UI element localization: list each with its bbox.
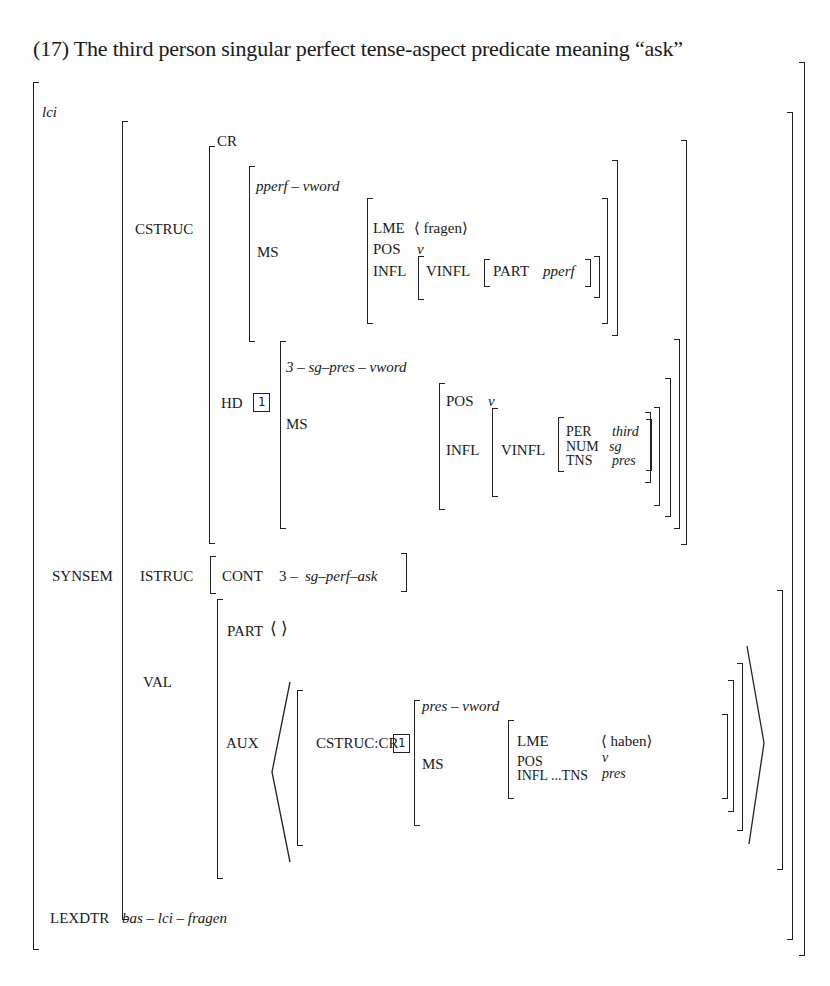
hd-label: HD	[221, 395, 243, 411]
val-bracket-left	[217, 599, 223, 879]
aux-list-close-angle	[746, 646, 766, 846]
val-part-label: PART	[227, 623, 263, 639]
aux-list-open-angle	[271, 682, 291, 862]
istruc-cont-label: CONT	[222, 568, 263, 584]
val-part-value: ⟨ ⟩	[270, 621, 288, 637]
avm-type: lci	[42, 104, 57, 120]
aux-ms-label: MS	[422, 756, 444, 772]
cstruc-bracket-right	[681, 140, 687, 545]
istruc-bracket-right	[401, 553, 407, 592]
cr-pos-label: POS	[373, 241, 401, 257]
cr-pos-value: v	[417, 241, 424, 257]
istruc-cont-value: sg–perf–ask	[305, 568, 378, 584]
synsem-bracket-left	[122, 121, 128, 920]
cr-label: CR	[217, 133, 237, 149]
hd-vinfl-label: VINFL	[501, 442, 545, 458]
aux-lme-label: LME	[517, 733, 549, 749]
aux-label: AUX	[226, 735, 259, 751]
hd-infl-bracket-left	[492, 408, 498, 497]
hd-agr-bracket-right-inner	[646, 419, 652, 471]
istruc-cont-prefix: 3 –	[279, 568, 298, 584]
synsem-label: SYNSEM	[52, 568, 113, 584]
cr-vinfl-label: VINFL	[426, 263, 470, 279]
aux-item-bracket-right	[737, 663, 743, 831]
hd-tag: 1	[253, 393, 270, 412]
hd-tns-label: TNS	[566, 454, 592, 468]
outer-bracket-right	[799, 62, 805, 956]
hd-pos-label: POS	[446, 393, 474, 409]
hd-num-value: sg	[609, 440, 621, 454]
hd-infl-label: INFL	[446, 442, 479, 458]
aux-lme-value: ⟨ haben⟩	[601, 733, 652, 749]
cr-vinfl-bracket-right	[585, 259, 591, 287]
cr-infl-bracket-right	[594, 256, 600, 298]
istruc-bracket-left	[210, 556, 216, 594]
hd-type: 3 – sg–pres – vword	[286, 359, 407, 375]
cr-bracket-left	[249, 166, 255, 342]
cr-ms-bracket-right	[602, 198, 608, 324]
istruc-label: ISTRUC	[140, 568, 193, 584]
cr-ms-label: MS	[257, 244, 279, 260]
hd-pos-value: v	[488, 393, 495, 409]
cr-infl-label: INFL	[373, 263, 406, 279]
example-caption: (17) The third person singular perfect t…	[33, 36, 683, 62]
aux-cr-bracket-left	[414, 700, 420, 826]
hd-per-label: PER	[566, 425, 592, 439]
aux-ms-bracket-right	[722, 714, 728, 799]
aux-tag: 1	[393, 734, 410, 753]
hd-tns-value: pres	[612, 454, 636, 468]
hd-ms-label: MS	[286, 416, 308, 432]
aux-infl-value: pres	[602, 767, 626, 781]
cr-type: pperf – vword	[256, 178, 340, 194]
cstruc-label: CSTRUC	[135, 221, 193, 237]
cr-infl-bracket-left	[418, 256, 424, 300]
aux-path-label: CSTRUC:CR	[316, 735, 399, 751]
val-label: VAL	[143, 674, 172, 690]
cstruc-bracket-left	[209, 146, 215, 544]
aux-pos-label: POS	[517, 755, 543, 769]
cr-part-label: PART	[493, 263, 529, 279]
cr-vinfl-bracket-left	[484, 259, 490, 287]
synsem-bracket-right	[787, 112, 793, 940]
hd-ms-bracket-right	[665, 378, 671, 517]
hd-agr-bracket-left	[558, 417, 564, 472]
hd-num-label: NUM	[566, 440, 599, 454]
outer-bracket-left	[33, 82, 39, 950]
cr-part-value: pperf	[543, 263, 575, 279]
val-bracket-right	[777, 590, 783, 870]
aux-item-bracket-left	[297, 690, 303, 846]
lexdtr-label: LEXDTR	[50, 910, 109, 926]
aux-cr-type: pres – vword	[422, 698, 499, 714]
hd-ms-bracket-left	[439, 383, 445, 510]
aux-infl-label: INFL ...TNS	[517, 769, 588, 783]
aux-cr-bracket-right	[728, 680, 734, 812]
hd-per-value: third	[612, 425, 639, 439]
aux-pos-value: v	[602, 751, 608, 765]
aux-ms-bracket-left	[508, 720, 514, 799]
lexdtr-value: bas – lci – fragen	[122, 910, 227, 926]
cr-lme-value: ⟨ fragen⟩	[414, 220, 468, 236]
hd-bracket-right	[674, 339, 680, 529]
cr-ms-bracket-left	[367, 198, 373, 324]
hd-infl-bracket-right	[654, 407, 660, 506]
cr-lme-label: LME	[373, 220, 405, 236]
cr-bracket-right	[612, 160, 618, 336]
